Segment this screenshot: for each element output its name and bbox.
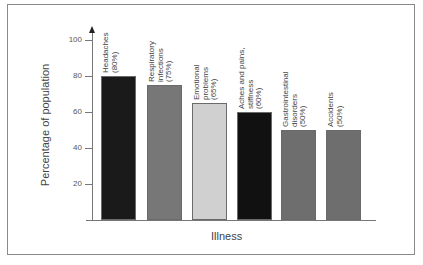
bar-label: Gastrointestinaldisorders(50%) — [282, 71, 308, 127]
bar-label: Emotionalproblems(65%) — [193, 64, 219, 100]
bar-label: Aches and pains,stiffness(60%) — [238, 48, 264, 109]
bar-label-line: (60%) — [255, 48, 264, 109]
y-axis-arrow-icon — [89, 26, 95, 33]
y-tick — [85, 76, 92, 77]
x-axis-label: Illness — [211, 230, 242, 242]
bar-label-line: (50%) — [299, 71, 308, 127]
bar — [281, 130, 316, 220]
bar — [147, 85, 182, 220]
y-tick-label: 80 — [60, 71, 82, 81]
bar-label: Accidents(50%) — [327, 92, 344, 127]
x-axis — [86, 220, 376, 221]
bar-label-line: (50%) — [336, 92, 345, 127]
y-tick-label: 60 — [60, 107, 82, 117]
bar — [101, 76, 136, 220]
bar — [192, 103, 227, 220]
bar — [326, 130, 361, 220]
y-tick — [85, 148, 92, 149]
y-tick-label: 40 — [60, 143, 82, 153]
bar-label-line: (65%) — [210, 64, 219, 100]
y-axis — [92, 32, 93, 220]
bar — [237, 112, 272, 220]
bar-label-line: (75%) — [165, 41, 174, 82]
y-tick — [85, 112, 92, 113]
bar-label: Respiratoryinfections(75%) — [148, 41, 174, 82]
y-tick-label: 20 — [60, 179, 82, 189]
y-tick — [85, 184, 92, 185]
bar-label-line: (80%) — [111, 33, 120, 73]
y-axis-label: Percentage of population — [39, 64, 51, 186]
bar-label: Headaches(80%) — [102, 33, 119, 73]
y-tick — [85, 40, 92, 41]
y-tick-label: 100 — [60, 35, 82, 45]
